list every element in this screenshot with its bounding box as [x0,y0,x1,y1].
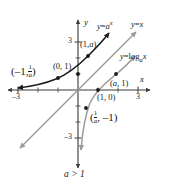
point-neg1-inv-a [56,76,60,80]
pt-inv-close: , –1) [97,111,117,123]
eq-exp-exponent: x [110,19,113,26]
fraction-one-over-a: 1a [28,64,32,80]
pt-1a-close: ) [93,39,96,49]
point-a-1 [114,72,118,76]
x-tick-label-neg3: –3 [12,93,20,101]
plot-canvas [0,0,174,188]
pt-neg1-close: ) [32,65,36,77]
point-label-0-1: (0, 1) [53,62,71,71]
eq-log-arg: x [143,51,147,61]
point-label-1-0: (1, 0) [97,93,115,102]
figure-caption: a > 1 [64,170,85,180]
point-0-1 [76,72,80,76]
y-tick-label-3: 3 [68,37,72,45]
logarithm-curve [81,56,135,150]
point-label-inv-a-neg1: (1a, –1) [90,110,117,126]
x-axis-label: x [140,75,144,84]
point-label-1-a: (1,a) [80,40,96,49]
fraction-one-over-a-2: 1a [94,110,98,126]
point-1-a [86,54,90,58]
pt-1a-open: (1, [80,39,89,49]
point-inv-a-neg1 [84,106,88,110]
pt-a1-close: , 1) [117,78,128,88]
pt-neg1-num: 1 [28,64,32,71]
equation-label-exponential: y=ax [97,20,113,30]
pt-inv-den: a [94,117,98,125]
pt-neg1-den: a [28,71,32,79]
pt-neg1-open: (–1, [11,65,28,77]
equation-label-identity: y=x [131,20,143,29]
equation-label-logarithm: y=logax [120,52,146,63]
point-label-a-1: (a, 1) [110,79,128,88]
pt-inv-num: 1 [94,110,98,117]
x-tick-label-3: 3 [136,93,140,101]
eq-log-fn: log [129,51,140,61]
y-axis-label: y [84,18,88,27]
point-label-neg1-inv-a: (–1,1a) [11,64,36,80]
exponential-logarithm-graph-figure: y x 3 –3 –3 3 y=ax y=x y=logax (1,a) (0,… [0,0,174,188]
eq-line-rhs: x [140,19,144,29]
y-tick-label-neg3: –3 [64,133,72,141]
